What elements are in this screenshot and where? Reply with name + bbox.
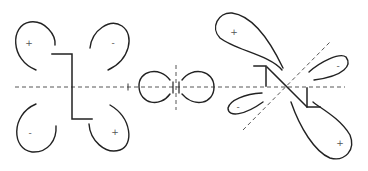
sign-upper-right-small: - <box>336 61 339 71</box>
orbital-diagram: + - - + + - - + <box>0 0 368 171</box>
sign-top-left: + <box>25 38 33 48</box>
diagonal-bond-projection <box>254 66 266 86</box>
lobe-lower-left-small <box>228 93 263 114</box>
lobe-lower-right-large <box>291 102 352 159</box>
lobe-top-left <box>16 22 55 70</box>
sign-bottom-left: - <box>28 128 31 138</box>
center-p-orbital <box>139 65 214 110</box>
sign-upper-left-large: + <box>230 27 238 37</box>
lobe-upper-right-small <box>309 56 348 80</box>
lobe-upper-left-large <box>216 13 283 70</box>
z-bond-projection <box>52 54 92 119</box>
right-d-orbital: + - - + <box>216 13 352 159</box>
sign-lower-left-small: - <box>236 102 239 112</box>
diagonal-bond-projection-lower <box>307 88 320 107</box>
sign-top-right: - <box>111 38 114 48</box>
lobe-top-right <box>90 23 129 70</box>
sign-bottom-right: + <box>111 127 119 137</box>
diagonal-bond <box>267 67 307 107</box>
lobe-bottom-left <box>17 104 56 152</box>
lobe-bottom-right <box>89 105 129 151</box>
sign-lower-right-large: + <box>336 138 344 148</box>
